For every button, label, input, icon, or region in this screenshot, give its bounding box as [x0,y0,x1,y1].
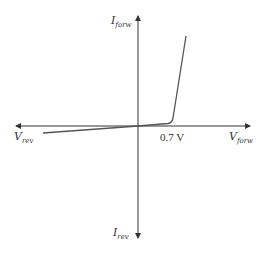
label-i-rev: Irev [112,226,129,241]
label-i-forw: Iforw [110,14,132,29]
label-v-forw: Vforw [229,130,253,145]
label-v-rev: Vrev [14,130,33,145]
diode-curve [43,36,186,133]
label-knee-voltage: 0.7 V [160,131,184,143]
diode-iv-diagram: Iforw Irev Vrev Vforw 0.7 V [0,0,264,254]
